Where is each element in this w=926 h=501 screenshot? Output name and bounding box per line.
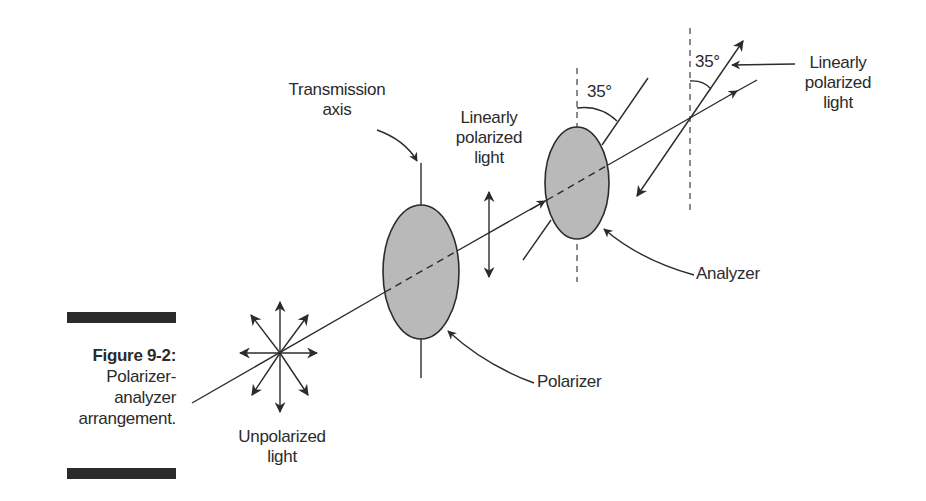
analyzer-filter xyxy=(545,127,609,239)
analyzer-label: Analyzer xyxy=(696,264,786,284)
linearly-polarized-right-leader xyxy=(732,64,795,65)
label-line: light xyxy=(437,148,541,168)
beam-segment-1 xyxy=(192,292,385,403)
transmission-axis-leader xyxy=(377,130,417,161)
analyzer-leader xyxy=(604,229,694,275)
label-line: Analyzer xyxy=(696,264,786,284)
beam-segment-3 xyxy=(608,91,737,165)
linearly-polarized-mid-label: Linearly polarized light xyxy=(437,108,541,168)
label-line: Transmission xyxy=(272,80,402,100)
output-angle-arc xyxy=(690,81,711,89)
polarizer-label: Polarizer xyxy=(537,372,627,392)
label-line: light xyxy=(222,447,342,467)
linearly-polarized-right-label: Linearly polarized light xyxy=(790,53,886,113)
label-line: Unpolarized xyxy=(222,427,342,447)
analyzer-axis-bottom xyxy=(523,220,551,260)
analyzer-angle-arc xyxy=(577,108,617,121)
label-line: 35° xyxy=(587,82,627,102)
output-angle-label: 35° xyxy=(695,52,735,72)
label-line: Linearly xyxy=(790,53,886,73)
label-line: polarized xyxy=(437,128,541,148)
label-line: Linearly xyxy=(437,108,541,128)
unpolarized-light-label: Unpolarized light xyxy=(222,427,342,467)
polarizer-analyzer-diagram xyxy=(0,0,926,501)
label-line: polarized xyxy=(790,73,886,93)
analyzer-angle-label: 35° xyxy=(587,82,627,102)
label-line: Polarizer xyxy=(537,372,627,392)
unpolarized-light-star-icon xyxy=(240,302,317,412)
label-line: light xyxy=(790,93,886,113)
label-line: 35° xyxy=(695,52,735,72)
polarizer-leader xyxy=(448,331,534,383)
label-line: axis xyxy=(272,100,402,120)
transmission-axis-label: Transmission axis xyxy=(272,80,402,120)
